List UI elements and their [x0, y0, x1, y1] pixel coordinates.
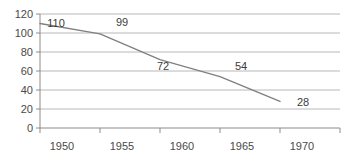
- y-tick-label-80: 80: [21, 46, 33, 58]
- line-chart: 120 100 80 60 40 20 0 1950 1955 1960 196…: [0, 0, 353, 166]
- chart-canvas: 120 100 80 60 40 20 0 1950 1955 1960 196…: [0, 0, 353, 166]
- x-tick-label-1950: 1950: [50, 140, 74, 152]
- y-tick-label-60: 60: [21, 65, 33, 77]
- data-label-54: 54: [235, 60, 247, 72]
- data-label-110: 110: [47, 17, 65, 29]
- data-label-72: 72: [157, 60, 169, 72]
- y-tick-label-120: 120: [15, 8, 33, 20]
- y-tick-label-40: 40: [21, 84, 33, 96]
- x-tick-label-1965: 1965: [230, 140, 254, 152]
- x-tick-label-1960: 1960: [170, 140, 194, 152]
- y-tick-label-20: 20: [21, 103, 33, 115]
- x-tick-label-1970: 1970: [290, 140, 314, 152]
- y-tick-label-100: 100: [15, 27, 33, 39]
- y-tick-label-0: 0: [27, 122, 33, 134]
- data-label-28: 28: [297, 96, 309, 108]
- x-tick-label-1955: 1955: [110, 140, 134, 152]
- data-label-99: 99: [116, 16, 128, 28]
